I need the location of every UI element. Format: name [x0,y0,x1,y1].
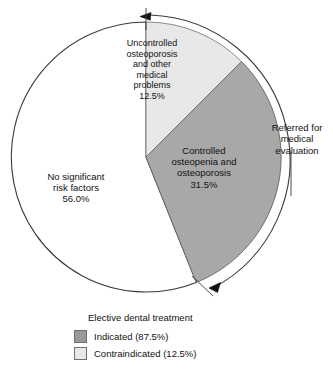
legend-label-contraindicated: Contraindicated (12.5%) [94,348,196,359]
referral-arrow-bottom-icon [209,283,221,293]
legend-title: Elective dental treatment [88,312,333,323]
chart-legend: Elective dental treatment Indicated (87.… [0,312,333,364]
annotation-line: medical [264,133,330,144]
legend-swatch-indicated [74,330,87,343]
annotation-referred-for-medical-evaluation: Referred for medical evaluation [264,122,330,156]
legend-label-indicated: Indicated (87.5%) [94,331,168,342]
annotation-line: Referred for [264,122,330,133]
legend-item-indicated: Indicated (87.5%) [74,330,333,343]
referral-arrow-top-icon [140,13,151,21]
annotation-line: evaluation [264,145,330,156]
legend-item-contraindicated: Contraindicated (12.5%) [74,347,333,360]
pie-chart-figure: Uncontrolled osteoporosis and other medi… [0,0,333,386]
legend-swatch-contraindicated [74,347,87,360]
